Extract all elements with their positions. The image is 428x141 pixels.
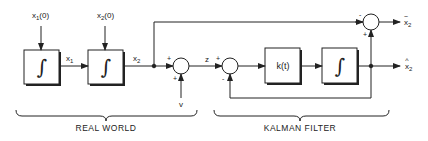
x1-label: x1 bbox=[66, 55, 73, 64]
x2-init-label: x2(0) bbox=[97, 12, 114, 21]
z-label: z bbox=[205, 56, 209, 64]
integral-icon: ∫ bbox=[101, 57, 111, 77]
sum-junction-measurement bbox=[173, 58, 189, 74]
diagram-canvas bbox=[0, 0, 428, 141]
integral-icon: ∫ bbox=[37, 57, 47, 77]
integral-icon: ∫ bbox=[335, 56, 345, 76]
kalman-filter-caption: KALMAN FILTER bbox=[264, 124, 336, 133]
kalman-filter-brace bbox=[214, 110, 389, 121]
gain-label: k(t) bbox=[277, 62, 290, 71]
x2-tilde-label: ~x2 bbox=[404, 19, 411, 28]
v-label: v bbox=[179, 101, 183, 109]
real-world-caption: REAL WORLD bbox=[76, 124, 137, 133]
sum-junction-innovation bbox=[222, 58, 238, 74]
kalman-filter-diagram: ∫ ∫ k(t) ∫ x1(0) x2(0) x1 x2 z v + + + -… bbox=[0, 0, 428, 141]
x2-label: x2 bbox=[133, 55, 140, 64]
sum-junction-error bbox=[363, 14, 379, 30]
sum2-minus-bottom: - bbox=[222, 75, 224, 82]
sum1-plus-bottom: + bbox=[173, 75, 177, 82]
sum1-plus-left: + bbox=[167, 55, 171, 62]
x1-init-label: x1(0) bbox=[32, 12, 49, 21]
sum2-plus-left: + bbox=[216, 55, 220, 62]
real-world-brace bbox=[16, 110, 197, 121]
x2-hat-label: ^x2 bbox=[405, 63, 412, 72]
sum3-minus-left: - bbox=[359, 11, 361, 18]
sum3-plus-bottom: + bbox=[363, 31, 367, 38]
